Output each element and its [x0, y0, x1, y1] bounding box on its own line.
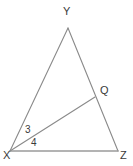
- vertex-label-q: Q: [100, 85, 109, 96]
- angle-label-4: 4: [31, 138, 37, 148]
- vertex-label-y: Y: [63, 6, 70, 17]
- triangle-diagram-svg: [0, 0, 133, 166]
- vertex-label-x: X: [3, 150, 10, 161]
- angle-label-3: 3: [25, 125, 31, 135]
- geometry-figure: Y X Z Q 3 4: [0, 0, 133, 166]
- segment-yz: [68, 28, 118, 151]
- vertex-label-z: Z: [120, 150, 127, 161]
